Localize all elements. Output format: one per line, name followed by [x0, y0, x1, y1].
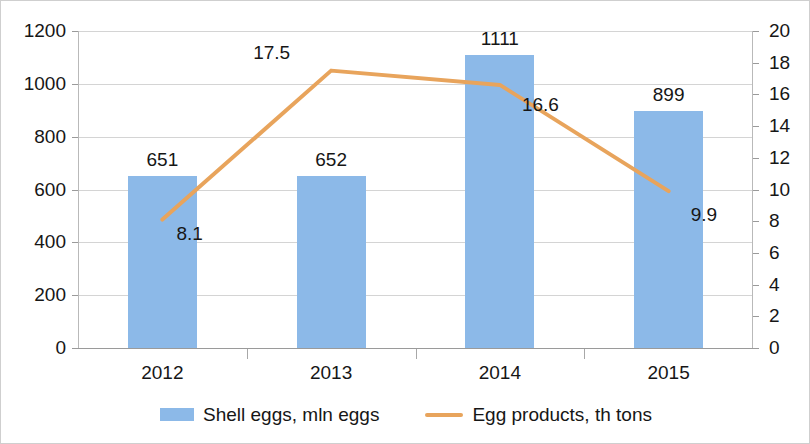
right-axis-tick	[753, 253, 759, 254]
x-axis-label-2015: 2015	[584, 363, 753, 382]
right-axis-tick-label: 12	[769, 148, 809, 167]
left-axis-tick-label: 400	[6, 232, 66, 251]
right-axis-tick	[753, 94, 759, 95]
right-axis-tick-label: 8	[769, 211, 809, 230]
bar-data-label-2015: 899	[609, 85, 729, 104]
right-axis-tick-label: 20	[769, 21, 809, 40]
left-axis-tick-label: 600	[6, 180, 66, 199]
line-series-egg-products	[78, 31, 753, 349]
left-axis-tick-label: 0	[6, 338, 66, 357]
right-axis-tick-label: 18	[769, 53, 809, 72]
right-axis-tick	[753, 126, 759, 127]
right-axis-tick	[753, 190, 759, 191]
legend-line-swatch-icon	[425, 413, 463, 417]
bar-data-label-2014: 1111	[440, 29, 560, 48]
x-axis-label-2013: 2013	[247, 363, 416, 382]
right-axis-tick-label: 2	[769, 306, 809, 325]
legend-label-shell-eggs: Shell eggs, mln eggs	[203, 405, 379, 424]
left-axis-tick-label: 200	[6, 285, 66, 304]
right-axis-tick	[753, 158, 759, 159]
right-axis-tick	[753, 31, 759, 32]
right-axis-tick-label: 10	[769, 180, 809, 199]
legend-label-egg-products: Egg products, th tons	[472, 405, 652, 424]
right-axis-tick-label: 14	[769, 116, 809, 135]
line-data-label-2012: 8.1	[176, 224, 202, 243]
x-axis-tick	[416, 348, 417, 359]
left-axis-tick-label: 1000	[6, 74, 66, 93]
line-data-label-2015: 9.9	[691, 205, 717, 224]
right-axis-tick	[753, 316, 759, 317]
bar-data-label-2013: 652	[271, 150, 391, 169]
right-axis-tick-label: 6	[769, 243, 809, 262]
plot-area: 6516521111899 8.117.516.69.9	[78, 31, 753, 348]
chart-legend: Shell eggs, mln eggs Egg products, th to…	[1, 405, 810, 424]
right-axis-tick-label: 4	[769, 275, 809, 294]
line-data-label-2014: 16.6	[522, 95, 559, 114]
left-axis-tick-label: 1200	[6, 21, 66, 40]
legend-bar-swatch-icon	[160, 408, 194, 421]
right-axis-tick-label: 0	[769, 338, 809, 357]
x-axis-label-2012: 2012	[78, 363, 247, 382]
x-axis-tick	[247, 348, 248, 359]
legend-item-egg-products[interactable]: Egg products, th tons	[425, 405, 652, 424]
right-axis-tick	[753, 285, 759, 286]
legend-item-shell-eggs[interactable]: Shell eggs, mln eggs	[160, 405, 379, 424]
x-axis-tick	[584, 348, 585, 359]
bar-data-label-2012: 651	[102, 150, 222, 169]
right-axis-tick	[753, 221, 759, 222]
right-axis-tick-label: 16	[769, 84, 809, 103]
right-axis-tick	[753, 348, 759, 349]
x-axis-label-2014: 2014	[416, 363, 585, 382]
chart-figure: 020040060080010001200 02468101214161820 …	[0, 0, 810, 444]
line-data-label-2013: 17.5	[253, 43, 290, 62]
right-axis-tick	[753, 63, 759, 64]
left-axis-tick-label: 800	[6, 127, 66, 146]
